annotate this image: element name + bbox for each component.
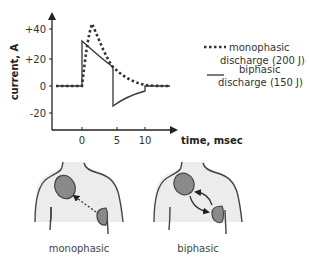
y-tick-label: 0 xyxy=(40,81,46,92)
biphasic-series-line xyxy=(56,41,170,106)
x-tick-label: 0 xyxy=(79,135,85,146)
chart-axes: +40 +20 0 -20 0 5 10 time, msec current,… xyxy=(9,14,243,146)
paddle-icon xyxy=(97,208,108,225)
chart-series xyxy=(56,24,170,106)
legend-label-monophasic: monophasic xyxy=(229,42,290,53)
y-tick-label: +40 xyxy=(25,24,46,35)
torso-illustration-monophasic: monophasic xyxy=(35,162,123,254)
torso-illustration-biphasic: biphasic xyxy=(154,162,242,254)
chart-legend: monophasic discharge (200 J) biphasic di… xyxy=(204,42,305,88)
legend-label-biphasic: biphasic xyxy=(239,64,280,75)
caption-biphasic: biphasic xyxy=(177,243,218,254)
y-tick-label: -20 xyxy=(30,108,46,119)
x-tick-label: 5 xyxy=(114,135,120,146)
y-tick-label: +20 xyxy=(25,54,46,65)
x-axis-title: time, msec xyxy=(181,135,243,146)
x-tick-label: 10 xyxy=(139,135,152,146)
y-axis-title: current, A xyxy=(9,43,20,100)
paddle-icon xyxy=(212,206,224,223)
caption-monophasic: monophasic xyxy=(49,243,110,254)
legend-label-biphasic-2: discharge (150 J) xyxy=(218,77,303,88)
figure: +40 +20 0 -20 0 5 10 time, msec current,… xyxy=(0,0,309,264)
